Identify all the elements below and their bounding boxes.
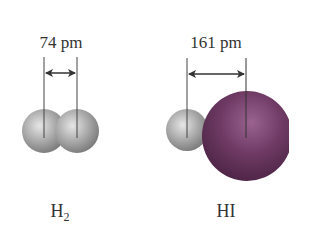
hi-bond-length-label: 161 pm bbox=[190, 34, 241, 51]
h2-molecule bbox=[22, 57, 99, 153]
h2-molecule-name: H2 bbox=[51, 202, 70, 223]
hi-molecule bbox=[166, 58, 289, 181]
hi-molecule-name: HI bbox=[217, 202, 236, 220]
h2-formula: H bbox=[51, 201, 64, 221]
hi-formula: HI bbox=[217, 201, 236, 221]
h2-bond-length-label: 74 pm bbox=[40, 34, 83, 51]
h2-subscript: 2 bbox=[64, 210, 70, 224]
